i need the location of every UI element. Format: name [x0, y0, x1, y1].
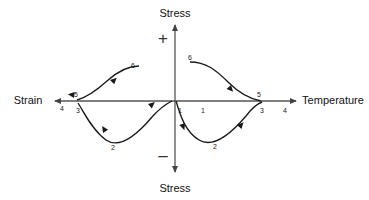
stress-bottom-label: Stress: [159, 183, 190, 194]
step-label-right-6: 6: [188, 54, 192, 61]
step-label-left-4: 4: [60, 105, 64, 112]
stress-temperature-strain-diagram: Stress Stress Strain Temperature + – 4 5…: [0, 0, 369, 200]
step-label-right-3: 3: [260, 107, 264, 114]
right-arrow-step6: [227, 85, 236, 94]
step-label-left-6: 6: [131, 62, 135, 69]
left-upper-curve: [77, 66, 139, 100]
stress-top-label: Stress: [159, 8, 190, 19]
left-lower-curve: [78, 101, 172, 143]
step-label-right-5: 5: [257, 91, 261, 98]
step-label-right-1a: 1: [178, 107, 182, 114]
left-arrow-step2: [100, 124, 109, 133]
step-label-right-1b: 1: [201, 107, 205, 114]
right-hysteresis-loop: [176, 62, 262, 143]
step-label-right-4: 4: [283, 107, 287, 114]
step-label-left-5: 5: [74, 91, 78, 98]
step-label-right-2: 2: [213, 143, 217, 150]
strain-axis-label: Strain: [14, 95, 43, 106]
right-upper-curve: [190, 62, 261, 101]
left-hysteresis-loop: [68, 66, 172, 143]
step-label-left-3: 3: [76, 107, 80, 114]
positive-sign-label: +: [158, 30, 168, 47]
step-label-left-2: 2: [111, 144, 115, 151]
right-lower-curve: [176, 101, 262, 143]
temperature-axis-label: Temperature: [302, 95, 364, 106]
negative-sign-label: –: [158, 147, 167, 164]
